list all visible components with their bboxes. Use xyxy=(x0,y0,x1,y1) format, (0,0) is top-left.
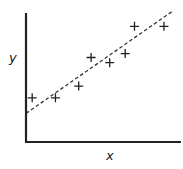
data-point-plus-icon xyxy=(87,53,96,62)
data-point-plus-icon xyxy=(74,82,83,91)
data-point-plus-icon xyxy=(105,58,114,67)
data-point-plus-icon xyxy=(130,22,139,31)
data-point-plus-icon xyxy=(159,22,168,31)
plot-area xyxy=(26,11,173,114)
y-axis-label: y xyxy=(8,50,17,65)
data-point-plus-icon xyxy=(28,93,37,102)
data-point-plus-icon xyxy=(121,49,130,58)
x-axis-label: x xyxy=(105,148,114,163)
trend-line xyxy=(26,11,173,114)
scatter-chart: y x xyxy=(0,0,183,169)
